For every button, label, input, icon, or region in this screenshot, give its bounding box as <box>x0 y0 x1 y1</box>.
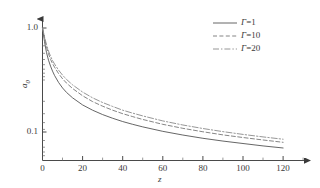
gamma-symbol-10: Γ <box>241 30 246 40</box>
gamma-value-20: 20 <box>251 43 260 53</box>
y-axis-title: a0 <box>20 80 31 88</box>
legend-line-dashed-icon <box>212 31 238 41</box>
x-tick-label-40: 40 <box>113 164 133 173</box>
x-axis-title: z <box>158 175 162 184</box>
legend-item-gamma-20: Γ=20 <box>212 42 312 55</box>
y-tick-label-0.1: 0.1 <box>14 127 38 136</box>
x-tick-label-80: 80 <box>193 164 213 173</box>
figure-container: 1.0 0.1 a0 0 20 40 60 80 100 120 z Γ=1 Γ… <box>0 0 320 188</box>
legend-item-gamma-10: Γ=10 <box>212 29 312 42</box>
x-tick-label-60: 60 <box>153 164 173 173</box>
legend-label-gamma-20: Γ=20 <box>238 44 260 53</box>
y-tick-label-1.0: 1.0 <box>14 23 38 32</box>
legend-label-gamma-1: Γ=1 <box>238 18 256 27</box>
gamma-symbol-20: Γ <box>241 43 246 53</box>
legend-line-dashdot-icon <box>212 44 238 54</box>
legend-label-gamma-10: Γ=10 <box>238 31 260 40</box>
legend-line-solid-icon <box>212 18 238 28</box>
x-tick-label-0: 0 <box>33 164 53 173</box>
gamma-value-10: 10 <box>251 30 260 40</box>
y-axis-title-subscript: 0 <box>24 80 31 83</box>
y-axis-title-base: a <box>19 84 29 89</box>
gamma-value-1: 1 <box>251 17 256 27</box>
x-tick-label-20: 20 <box>73 164 93 173</box>
legend-item-gamma-1: Γ=1 <box>212 16 312 29</box>
x-axis-major-ticks <box>43 156 284 161</box>
x-axis <box>43 156 306 161</box>
x-tick-label-120: 120 <box>273 164 293 173</box>
x-tick-label-100: 100 <box>233 164 253 173</box>
gamma-symbol-1: Γ <box>241 17 246 27</box>
chart-legend: Γ=1 Γ=10 Γ=20 <box>212 16 312 55</box>
